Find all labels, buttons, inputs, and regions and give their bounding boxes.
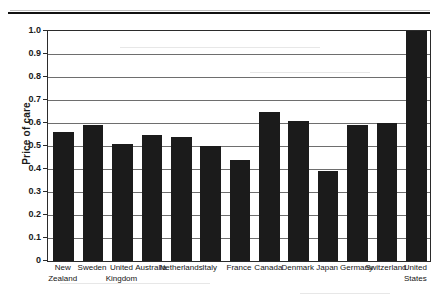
bar [230,160,251,261]
y-tick-label: 0.6 [0,118,41,127]
y-tick-label: 0.8 [0,72,41,81]
x-tick-label-line2: Kingdom [101,274,142,285]
x-tick-label: UnitedStates [395,263,436,284]
x-tick-label-line2: States [395,274,436,285]
bar [259,112,280,262]
y-tick-label: 0.1 [0,233,41,242]
y-tick-label: 0.9 [0,49,41,58]
bar-series [48,31,430,261]
bar [288,121,309,261]
y-tick-label: 1.0 [0,26,41,35]
bar [200,146,221,261]
y-tick-label: 0.3 [0,187,41,196]
y-tick-label: 0.7 [0,95,41,104]
page-top-rule [8,12,430,14]
bar [142,135,163,262]
bar [53,132,74,261]
bar [171,137,192,261]
x-tick-label-line1: Japan [316,263,338,272]
y-tick-label: 0.5 [0,141,41,150]
y-tick-label: 0.4 [0,164,41,173]
y-tick-label: 0.2 [0,210,41,219]
y-tick-label: 0 [0,256,41,265]
x-axis-tick-labels: NewZealandSwedenUnitedKingdomAustraliaNe… [47,263,431,301]
bar [83,125,104,261]
bar [406,31,427,261]
plot-area [47,30,431,262]
bar [318,171,339,261]
bar [347,125,368,261]
x-tick-label-line2: Zealand [42,274,83,285]
y-axis-tick-labels: 1.00.90.80.70.60.50.40.30.20.10 [0,0,43,302]
chart-figure: Price of care 1.00.90.80.70.60.50.40.30.… [0,0,444,302]
page-rule-shadow [10,10,430,11]
bar [112,144,133,261]
x-tick-label-line1: New [55,263,71,272]
x-tick-label-line1: United [404,263,427,272]
bar [377,123,398,261]
x-tick-label-line1: Italy [202,263,217,272]
